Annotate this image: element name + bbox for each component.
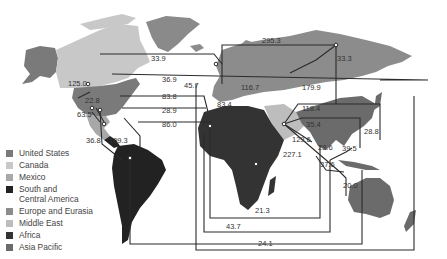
flow-label: 83.4: [217, 100, 232, 109]
flow-label: 179.9: [302, 83, 321, 92]
flow-label: 28.8: [364, 127, 379, 136]
flow-label: 125.0: [68, 79, 87, 88]
legend-swatch: [6, 162, 13, 169]
legend-item: Europe and Eurasia: [6, 206, 116, 218]
region-madagascar: [268, 176, 276, 196]
legend-label: South and Central America: [19, 184, 79, 204]
flow-label: 22.8: [85, 96, 100, 105]
flow-label: 24.1: [258, 239, 273, 248]
region-alaska: [22, 46, 58, 84]
flow-label: 37.6: [320, 160, 335, 169]
legend-item: Middle East: [6, 218, 116, 230]
flow-label: 45.7: [184, 81, 199, 90]
flow-label: 20.0: [343, 181, 358, 190]
flow-label: 33.3: [337, 54, 352, 63]
legend-label: Asia Pacific: [19, 242, 62, 252]
legend-swatch: [6, 220, 13, 227]
legend-swatch: [6, 174, 13, 181]
legend-label: Europe and Eurasia: [19, 206, 93, 216]
legend-swatch: [6, 208, 13, 215]
flow-label: 129.6: [292, 135, 311, 144]
legend-item: Asia Pacific: [6, 242, 116, 254]
flow-label: 86.0: [162, 120, 177, 129]
flow-label: 63.5: [77, 110, 92, 119]
region-japan: [374, 92, 382, 110]
region-indonesia: [338, 160, 380, 170]
legend-item: Mexico: [6, 172, 116, 184]
legend-item: Canada: [6, 160, 116, 172]
legend-swatch: [6, 232, 13, 239]
legend-label: Middle East: [19, 218, 63, 228]
flow-label: 116.7: [241, 83, 259, 92]
legend-item: South and Central America: [6, 184, 116, 206]
flow-label: 227.1: [283, 150, 302, 159]
flow-label: 28.9: [162, 106, 177, 115]
flow-label: 109.3: [109, 136, 128, 145]
flow-label: 21.3: [255, 206, 270, 215]
legend-swatch: [6, 244, 13, 251]
flow-label: 28.6: [318, 143, 333, 152]
legend: United StatesCanadaMexicoSouth and Centr…: [6, 148, 116, 254]
flow-label: 118.4: [302, 104, 320, 113]
flow-label: 43.7: [226, 222, 241, 231]
legend-label: Africa: [19, 230, 40, 240]
flow-label: 39.5: [342, 144, 357, 153]
region-iceland: [190, 44, 204, 52]
legend-label: United States: [19, 148, 69, 158]
flow-label: 295.3: [262, 36, 281, 45]
legend-label: Mexico: [19, 172, 46, 182]
legend-item: Africa: [6, 230, 116, 242]
legend-label: Canada: [19, 160, 48, 170]
flow-label: 33.9: [151, 54, 166, 63]
legend-item: United States: [6, 148, 116, 160]
flow-label: 83.8: [162, 92, 177, 101]
legend-swatch: [6, 186, 13, 193]
flow-label: 35.4: [306, 120, 321, 129]
legend-swatch: [6, 150, 13, 157]
flow-label: 36.8: [86, 136, 101, 145]
flow-label: 36.9: [162, 75, 177, 84]
